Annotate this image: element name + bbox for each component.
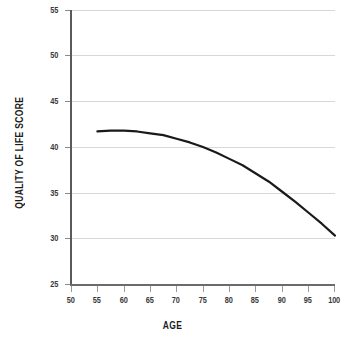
quality-of-life-chart: 55 50 45 40 35 30 25 50 55 60 65 70 75 8… (0, 0, 345, 353)
data-curve-layer (0, 0, 345, 353)
y-axis-title: QUALITY OF LIFE SCORE (14, 73, 25, 233)
x-axis-title: AGE (0, 320, 345, 331)
quality-of-life-curve (97, 131, 335, 236)
